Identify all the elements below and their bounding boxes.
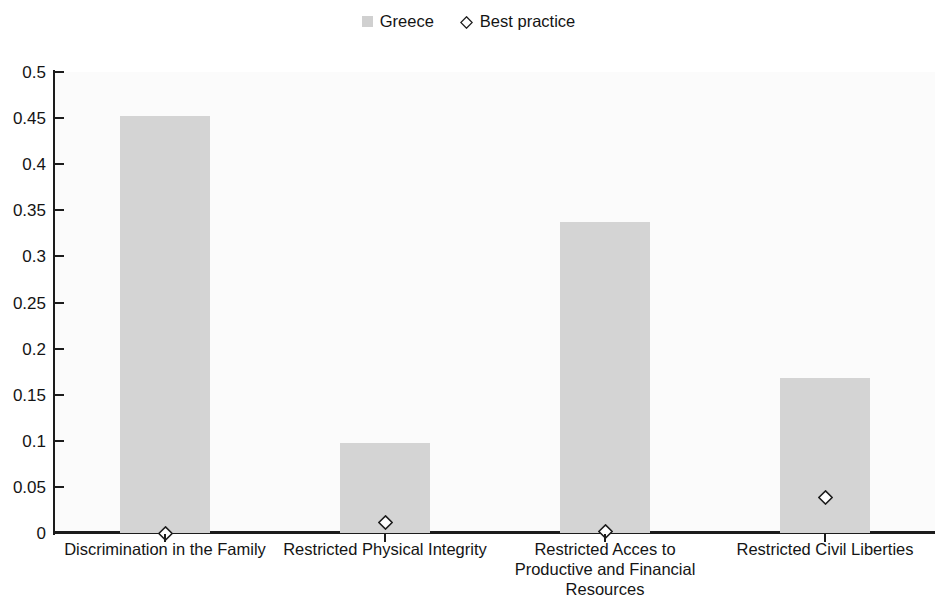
legend-item-best-practice: Best practice [460,13,575,30]
y-axis-tick [55,71,64,73]
x-axis-category-label: Restricted Physical Integrity [275,539,495,559]
y-axis-tick-label: 0.3 [0,248,46,265]
legend-diamond-swatch-icon [460,15,473,28]
y-axis-tick-label: 0.5 [0,64,46,81]
y-axis-tick [55,209,64,211]
y-axis-tick [55,440,64,442]
legend-item-greece: Greece [362,13,434,30]
bar [780,378,870,533]
chart-legend: Greece Best practice [0,8,937,34]
x-axis-category-label: Discrimination in the Family [55,539,275,559]
x-axis-category-label: Restricted Acces toProductive and Financ… [495,539,715,599]
x-axis-category-label-line: Restricted Physical Integrity [275,539,495,559]
y-axis-tick-label: 0.05 [0,479,46,496]
x-axis-category-label-line: Restricted Civil Liberties [715,539,935,559]
y-axis-tick-label: 0.45 [0,110,46,127]
y-axis-tick-label: 0 [0,525,46,542]
y-axis-tick [55,348,64,350]
legend-square-swatch-icon [362,16,373,27]
y-axis-tick-label: 0.4 [0,156,46,173]
y-axis-tick-label: 0.2 [0,341,46,358]
bar [120,116,210,533]
bar [560,222,650,533]
x-axis-category-label-line: Resources [495,579,715,599]
legend-label-greece: Greece [380,13,434,30]
x-axis-category-label-line: Discrimination in the Family [55,539,275,559]
y-axis-tick [55,532,64,534]
y-axis-tick [55,486,64,488]
diamond-marker-icon [818,490,833,505]
x-axis-category-label-line: Productive and Financial [495,559,715,579]
y-axis-tick [55,302,64,304]
x-axis-category-label: Restricted Civil Liberties [715,539,935,559]
y-axis-tick-label: 0.15 [0,387,46,404]
y-axis-tick-label: 0.25 [0,295,46,312]
y-axis-tick [55,394,64,396]
legend-label-best-practice: Best practice [480,13,575,30]
x-axis-category-label-line: Restricted Acces to [495,539,715,559]
y-axis-tick-label: 0.1 [0,433,46,450]
bar-chart: Greece Best practice 00.050.10.150.20.25… [0,0,937,607]
diamond-marker-icon [378,515,393,530]
y-axis-tick-label: 0.35 [0,202,46,219]
y-axis-tick [55,255,64,257]
y-axis-tick [55,117,64,119]
y-axis-tick [55,163,64,165]
